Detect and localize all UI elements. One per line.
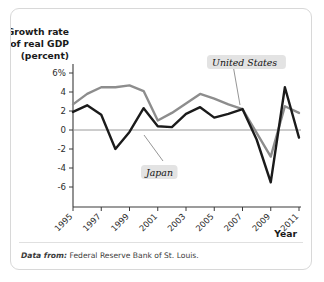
y-tick-label: 2 bbox=[61, 106, 66, 116]
source-note: Data from: Federal Reserve Bank of St. L… bbox=[21, 251, 199, 260]
y-tick-label: -2 bbox=[57, 144, 66, 154]
leader-line-japan bbox=[144, 135, 163, 161]
axes-layer: 6%420-2-4-619951997199920012003200520072… bbox=[52, 64, 301, 233]
x-tick-label: 2003 bbox=[165, 211, 187, 233]
leader-line-united-states bbox=[233, 65, 240, 105]
y-tick-label: 4 bbox=[61, 87, 66, 97]
series-layer bbox=[73, 85, 299, 182]
source-divider bbox=[19, 242, 303, 243]
y-axis-title: Growth rate of real GDP (percent) bbox=[11, 26, 69, 61]
series-label-japan: Japan bbox=[144, 167, 173, 178]
x-tick-label: 2005 bbox=[194, 211, 216, 233]
source-text: Federal Reserve Bank of St. Louis. bbox=[69, 251, 198, 260]
source-lead: Data from: bbox=[21, 251, 67, 260]
x-tick-label: 2009 bbox=[250, 211, 272, 233]
x-tick-label: 2001 bbox=[137, 211, 159, 233]
x-axis-title: Year bbox=[273, 228, 297, 239]
y-axis-title-line-3: (percent) bbox=[21, 50, 69, 61]
x-tick-label: 1997 bbox=[81, 211, 103, 233]
series-label-united-states: United States bbox=[212, 57, 277, 68]
y-tick-label: 6% bbox=[52, 68, 66, 78]
y-tick-label: -6 bbox=[57, 182, 66, 192]
y-axis-title-line-2: of real GDP bbox=[11, 38, 69, 49]
series-line-united-states bbox=[73, 85, 299, 156]
series-line-japan bbox=[73, 87, 299, 182]
x-tick-label: 1995 bbox=[52, 211, 74, 233]
gdp-growth-line-chart: Growth rate of real GDP (percent) 6%420-… bbox=[11, 9, 312, 270]
x-tick-label: 2007 bbox=[222, 211, 244, 233]
x-tick-label: 1999 bbox=[109, 211, 131, 233]
y-tick-label: 0 bbox=[61, 125, 66, 135]
figure-panel: Growth rate of real GDP (percent) 6%420-… bbox=[10, 8, 312, 270]
y-tick-label: -4 bbox=[57, 163, 66, 173]
y-axis-title-line-1: Growth rate bbox=[11, 26, 69, 37]
